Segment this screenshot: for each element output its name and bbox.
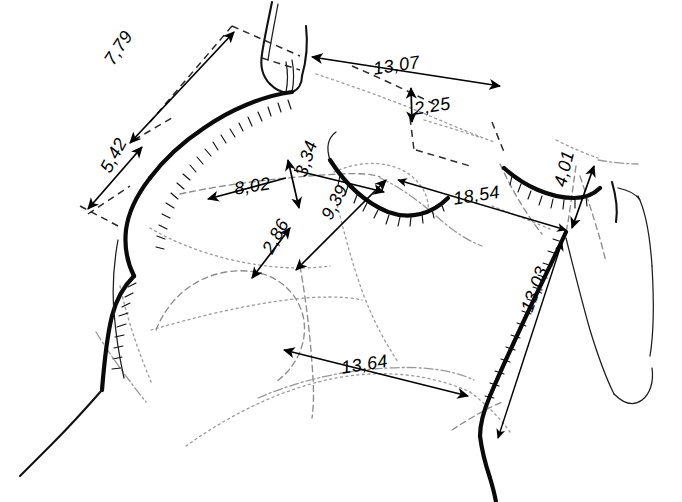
anatomical-measurement-figure: 7,79 5,42 13,07 2,25 8,02 3,34 9,39 2,86…: [0, 0, 682, 502]
dimension-arrow-7-79: [130, 32, 234, 143]
dimension-arrow-2-25: [411, 88, 412, 122]
figure-linework: [0, 0, 682, 502]
construction-contours: [80, 26, 638, 446]
